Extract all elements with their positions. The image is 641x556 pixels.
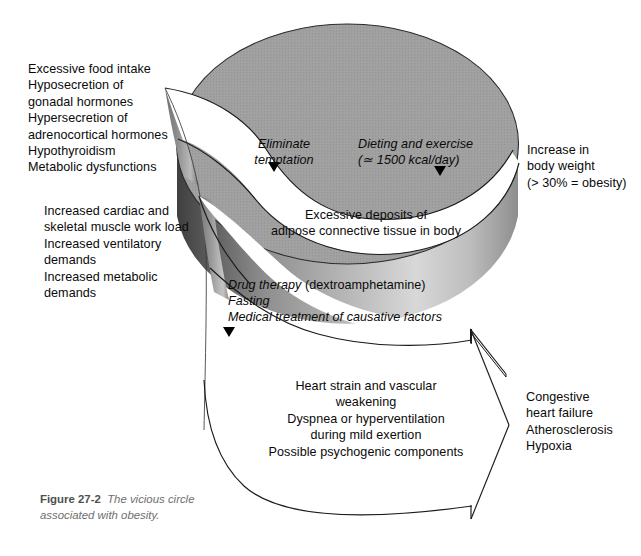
figure-caption: Figure 27-2 The vicious circle associate…: [40, 492, 194, 523]
figure-caption-line2: associated with obesity.: [40, 509, 159, 521]
figure-caption-label: Figure 27-2: [40, 493, 101, 505]
figure-caption-line1: The vicious circle: [107, 493, 194, 505]
outcome-increase-body-weight: Increase in body weight (> 30% = obesity…: [527, 142, 627, 191]
arrow-upper-barb-inner: [471, 333, 506, 377]
figure-container: Excessive food intake Hyposecretion of g…: [0, 0, 641, 556]
direction-marker-drug-therapy: [223, 327, 235, 337]
therapy-line-medical-treatment: Medical treatment of causative factors: [228, 309, 442, 325]
therapy-line-drug-therapy: Drug therapy (dextroamphetamine): [228, 277, 426, 293]
therapy-drug-roman: (dextroamphetamine): [301, 278, 425, 292]
arrow-upper-barb: [471, 330, 506, 374]
causes-text-block: Excessive food intake Hyposecretion of g…: [28, 61, 168, 176]
final-outcome-text-block: Congestive heart failure Atherosclerosis…: [526, 389, 613, 455]
arrow-notch-bottom: [470, 506, 471, 519]
therapy-line-fasting: Fasting: [228, 293, 270, 309]
intervention-eliminate-temptation: Eliminate temptation: [236, 136, 332, 169]
intervention-dieting-exercise: Dieting and exercise (≃ 1500 kcal/day): [358, 136, 473, 169]
excessive-deposits-text: Excessive deposits of adipose connective…: [216, 207, 516, 240]
cardiac-effects-text-block: Heart strain and vascular weakening Dysp…: [222, 378, 510, 460]
secondary-effects-text-block: Increased cardiac and skeletal muscle wo…: [44, 203, 189, 301]
therapy-drug-italic: Drug therapy: [228, 278, 301, 292]
